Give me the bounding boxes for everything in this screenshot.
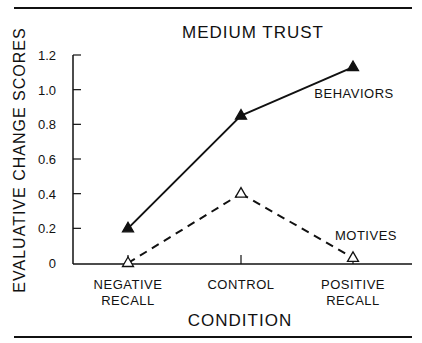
y-axis-label: EVALUATIVE CHANGE SCORES bbox=[11, 27, 28, 292]
motives-point bbox=[236, 188, 247, 198]
x-ticks: NEGATIVERECALLCONTROLPOSITIVERECALL bbox=[94, 255, 385, 308]
motives-series-label: MOTIVES bbox=[335, 228, 397, 243]
motives-line-segment bbox=[128, 194, 241, 263]
chart: MEDIUM TRUST EVALUATIVE CHANGE SCORES CO… bbox=[0, 0, 422, 343]
behaviors-series-label: BEHAVIORS bbox=[314, 86, 393, 101]
motives-line-segment bbox=[241, 194, 353, 258]
behaviors-point bbox=[348, 61, 359, 70]
y-tick-label: 1.0 bbox=[38, 83, 56, 98]
y-tick-label: 0.2 bbox=[38, 221, 56, 236]
x-tick-label: RECALL bbox=[101, 293, 155, 308]
chart-title: MEDIUM TRUST bbox=[182, 23, 324, 42]
y-ticks: 00.20.40.60.81.01.2 bbox=[38, 48, 81, 271]
motives-point bbox=[348, 252, 359, 261]
x-tick-label: CONTROL bbox=[207, 277, 274, 292]
x-tick-label: RECALL bbox=[326, 293, 380, 308]
y-tick-label: 0.6 bbox=[38, 152, 56, 167]
x-tick-label: POSITIVE bbox=[321, 277, 385, 292]
y-tick-label: 0.4 bbox=[38, 187, 56, 202]
y-tick-label: 1.2 bbox=[38, 48, 56, 63]
x-axis-label: CONDITION bbox=[188, 311, 292, 330]
y-tick-label: 0 bbox=[49, 256, 56, 271]
behaviors-line-segment bbox=[128, 116, 241, 229]
y-tick-label: 0.8 bbox=[38, 117, 56, 132]
series-group: BEHAVIORSMOTIVES bbox=[123, 61, 398, 266]
x-tick-label: NEGATIVE bbox=[94, 277, 163, 292]
